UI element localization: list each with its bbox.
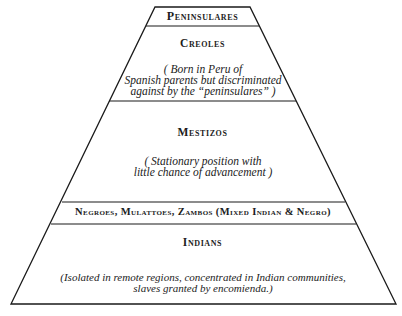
- tier-indians-description: (Isolated in remote regions, concentrate…: [40, 272, 366, 294]
- indians-desc-line-2: slaves granted by encomienda.): [40, 283, 366, 294]
- tier-negroes-title: Negroes, Mulattoes, Zambos (Mixed Indian…: [56, 206, 350, 217]
- mestizos-desc-line-2: little chance of advancement ): [110, 167, 296, 178]
- tier-indians-title: Indians: [150, 236, 255, 248]
- tier-creoles-title: Creoles: [150, 37, 255, 49]
- tier-mestizos-title: Mestizos: [150, 126, 255, 138]
- tier-creoles-description: ( Born in Peru of Spanish parents but di…: [110, 64, 296, 97]
- creoles-desc-line-3: against by the “peninsulares” ): [110, 86, 296, 97]
- tier-peninsulares-title: Peninsulares: [150, 9, 255, 24]
- tier-mestizos-description: ( Stationary position with little chance…: [110, 156, 296, 178]
